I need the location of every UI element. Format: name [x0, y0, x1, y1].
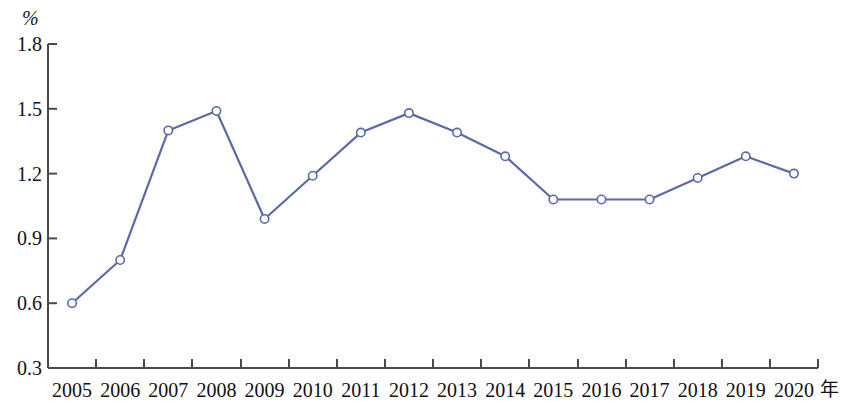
x-tick-label-2015: 2015 — [533, 380, 573, 400]
x-tick-label-2011: 2011 — [341, 380, 380, 400]
x-tick-label-2019: 2019 — [726, 380, 766, 400]
data-line-series-1 — [72, 111, 794, 303]
x-tick-label-2012: 2012 — [389, 380, 429, 400]
line-chart: % 1.8 1.5 1.2 0.9 0.6 0.3 20052006200720… — [0, 0, 846, 403]
x-tick-label-2013: 2013 — [437, 380, 477, 400]
x-axis-ticks — [96, 359, 818, 368]
y-tick-label-0.9: 0.9 — [0, 228, 42, 248]
data-point-2019 — [742, 152, 750, 160]
data-point-2005 — [68, 299, 76, 307]
x-tick-label-2017: 2017 — [630, 380, 670, 400]
x-axis-unit-label: 年 — [820, 380, 839, 399]
x-tick-label-2008: 2008 — [196, 380, 236, 400]
y-tick-label-1.5: 1.5 — [0, 99, 42, 119]
x-tick-label-2016: 2016 — [581, 380, 621, 400]
data-point-2010 — [308, 172, 316, 180]
x-tick-label-2007: 2007 — [148, 380, 188, 400]
data-point-2015 — [549, 195, 557, 203]
data-point-2012 — [405, 109, 413, 117]
y-tick-label-1.2: 1.2 — [0, 164, 42, 184]
x-tick-label-2009: 2009 — [245, 380, 285, 400]
x-tick-label-2006: 2006 — [100, 380, 140, 400]
data-point-2014 — [501, 152, 509, 160]
chart-canvas — [0, 0, 846, 403]
y-tick-label-0.3: 0.3 — [0, 358, 42, 378]
data-point-2017 — [645, 195, 653, 203]
x-tick-label-2005: 2005 — [52, 380, 92, 400]
data-point-2006 — [116, 256, 124, 264]
data-point-2009 — [260, 215, 268, 223]
y-axis-ticks — [48, 44, 57, 303]
data-point-2020 — [790, 169, 798, 177]
y-tick-label-0.6: 0.6 — [0, 293, 42, 313]
x-tick-label-2014: 2014 — [485, 380, 525, 400]
x-tick-label-2020: 2020 — [774, 380, 814, 400]
y-tick-label-1.8: 1.8 — [0, 34, 42, 54]
data-point-2018 — [693, 174, 701, 182]
y-axis-unit-label: % — [22, 8, 39, 28]
data-point-2007 — [164, 126, 172, 134]
x-tick-label-2010: 2010 — [293, 380, 333, 400]
data-point-2011 — [357, 128, 365, 136]
data-point-2008 — [212, 107, 220, 115]
axes-group — [48, 44, 818, 368]
data-point-2013 — [453, 128, 461, 136]
data-point-2016 — [597, 195, 605, 203]
data-markers-group — [68, 107, 798, 308]
x-tick-label-2018: 2018 — [678, 380, 718, 400]
